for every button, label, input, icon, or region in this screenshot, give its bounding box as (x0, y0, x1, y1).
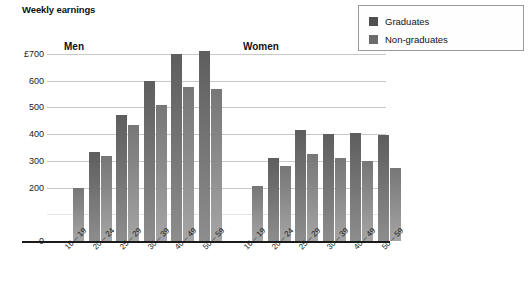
bar-women-graduates-2529 (295, 130, 306, 241)
panel-label-women: Women (243, 41, 279, 52)
y-tick-300: 300 (4, 156, 44, 166)
bars-layer (47, 54, 386, 241)
bar-men-graduates-2529 (116, 115, 127, 241)
bar-women-graduates-2024 (268, 158, 279, 241)
bar-men-graduates-5059 (199, 51, 210, 241)
bar-women-graduates-5059 (378, 135, 389, 241)
legend-swatch-graduates (369, 17, 378, 26)
bar-men-non-graduates-3039 (156, 105, 167, 241)
bar-men-graduates-4049 (171, 54, 182, 241)
chart-title: Weekly earnings (22, 4, 95, 15)
y-tick-400: 400 (4, 129, 44, 139)
legend-item-graduates: Graduates (369, 12, 523, 30)
panel-label-men: Men (64, 41, 84, 52)
bar-men-non-graduates-2529 (128, 125, 139, 241)
legend-swatch-non-graduates (369, 35, 378, 44)
bar-men-non-graduates-4049 (183, 87, 194, 241)
bar-women-graduates-3039 (323, 134, 334, 241)
y-tick-700: £700 (4, 49, 44, 59)
y-tick-600: 600 (4, 76, 44, 86)
y-tick-200: 200 (4, 183, 44, 193)
chart-legend: Graduates Non-graduates (358, 5, 524, 51)
x-axis-labels: 16 – 1920 – 2425 – 2930 – 3940 – 4950 – … (47, 245, 386, 287)
y-axis: 0200300400500600£700 (0, 54, 44, 241)
legend-label-non-graduates: Non-graduates (385, 34, 448, 45)
bar-men-graduates-2024 (89, 152, 100, 241)
weekly-earnings-chart: Weekly earnings Men Women 02003004005006… (0, 0, 530, 287)
bar-women-graduates-4049 (350, 133, 361, 241)
bar-men-non-graduates-5059 (211, 89, 222, 241)
legend-label-graduates: Graduates (385, 16, 429, 27)
legend-item-non-graduates: Non-graduates (369, 30, 523, 48)
bar-men-graduates-3039 (144, 81, 155, 241)
y-tick-500: 500 (4, 102, 44, 112)
